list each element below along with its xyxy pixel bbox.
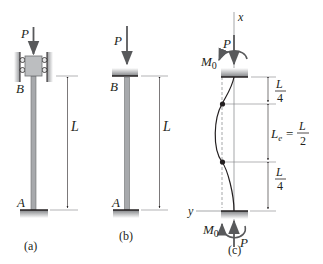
caption-b: (b) [119,229,133,243]
caption-c: (c) [228,243,241,257]
x-axis-label: x [237,10,244,24]
fixed-base-b [113,210,139,218]
svg-text:=: = [286,126,293,141]
fixed-cap-b [112,68,138,76]
svg-text:Le: Le [270,126,282,143]
svg-text:L: L [275,77,283,91]
load-label-a: P [20,26,29,41]
fixed-cap-c [221,68,248,77]
sliding-block [25,56,42,76]
moment-label-top: M0 [200,54,217,71]
svg-text:2: 2 [300,134,306,148]
dimension-l-a [50,76,78,210]
point-b-label-a: B [16,81,24,96]
fixed-base-c [221,211,248,219]
length-label-b: L [162,119,171,134]
load-label-top-c: P [222,36,231,51]
svg-text:4: 4 [277,91,283,105]
load-label-b: P [113,33,122,48]
point-b-label-b: B [110,79,118,94]
length-label-a: L [70,119,79,134]
svg-text:L: L [275,165,283,179]
point-a-label-b: A [111,195,120,210]
panel-c: x y P M0 P M0 [187,10,309,257]
dimension-quarter-top: L 4 [275,77,286,105]
buckled-shape [215,77,234,211]
column-buckling-figure: P B A L (a) P B A L (b) [0,0,323,264]
left-wall [14,52,20,82]
caption-a: (a) [24,239,37,253]
panel-a: P B A L (a) [14,26,82,253]
moment-label-bottom: M0 [202,222,219,239]
y-axis-label: y [187,204,194,218]
moment-arrow-top-icon [219,51,247,60]
svg-text:4: 4 [277,179,283,193]
dimension-quarter-bottom: L 4 [275,165,286,193]
dimension-l-b [141,76,168,210]
inflection-point-bottom [220,159,225,164]
panel-b: P B A L (b) [110,26,174,243]
fixed-base-a [20,210,48,218]
inflection-point-top [220,101,225,106]
svg-text:L: L [298,119,306,133]
right-wall [47,52,53,82]
column-a [31,76,36,210]
point-a-label-a: A [16,195,25,210]
dimension-lines-c [225,77,276,211]
column-b [125,77,130,210]
dimension-effective-length: Le = L 2 [270,119,309,148]
